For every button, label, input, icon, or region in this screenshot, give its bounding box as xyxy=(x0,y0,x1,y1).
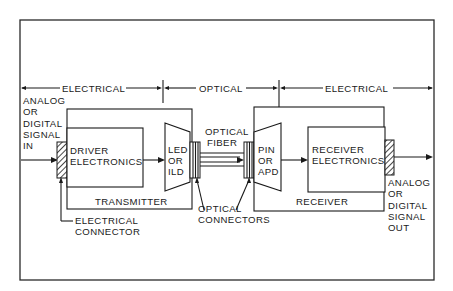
receiver-electronics-label-line2: ELECTRONICS xyxy=(312,155,385,166)
optical-connectors-label-line1: OPTICAL xyxy=(198,203,242,214)
svg-text:OR: OR xyxy=(23,106,38,117)
svg-text:DIGITAL: DIGITAL xyxy=(388,200,428,211)
optical-fiber xyxy=(200,153,244,166)
region-label-electrical-right: ELECTRICAL xyxy=(325,83,388,94)
dim-arrow-icon xyxy=(273,86,278,90)
optical-connectors-label-line2: CONNECTORS xyxy=(198,214,270,225)
detector-label-line3: APD xyxy=(258,166,279,177)
source-label-line2: OR xyxy=(168,155,183,166)
driver-label-line1: DRIVER xyxy=(70,145,109,156)
svg-text:DIGITAL: DIGITAL xyxy=(23,118,63,129)
optical-connector-left xyxy=(190,142,200,178)
fiber-label-line1: OPTICAL xyxy=(205,126,249,137)
svg-text:SIGNAL: SIGNAL xyxy=(388,211,426,222)
transmitter-label: TRANSMITTER xyxy=(95,196,168,207)
fiber-arrow-icon xyxy=(237,157,244,163)
source-label-line1: LED xyxy=(168,144,188,155)
dim-arrow-right-icon xyxy=(428,86,433,90)
output-arrow-icon xyxy=(426,154,433,160)
optical-connector-right xyxy=(244,142,254,178)
svg-text:IN: IN xyxy=(23,140,33,151)
electrical-connector-label-line2: CONNECTOR xyxy=(75,226,140,237)
dim-arrow-icon xyxy=(280,86,285,90)
svg-text:OUT: OUT xyxy=(388,222,409,233)
region-label-electrical-left: ELECTRICAL xyxy=(62,83,125,94)
electrical-connector-in xyxy=(57,142,67,178)
dim-arrow-icon xyxy=(157,86,162,90)
electrical-connector-out xyxy=(385,140,394,175)
fiber-label-line2: FIBER xyxy=(207,137,237,148)
svg-text:ANALOG: ANALOG xyxy=(23,95,65,106)
detector-label-line1: PIN xyxy=(258,144,275,155)
svg-text:OR: OR xyxy=(388,188,403,199)
electrical-connector-label-line1: ELECTRICAL xyxy=(75,215,138,226)
receiver-electronics-label-line1: RECEIVER xyxy=(312,144,364,155)
dim-arrow-icon xyxy=(164,86,169,90)
svg-text:ANALOG: ANALOG xyxy=(388,177,430,188)
driver-label-line2: ELECTRONICS xyxy=(70,156,143,167)
svg-text:SIGNAL: SIGNAL xyxy=(23,129,61,140)
detector-label-line2: OR xyxy=(258,155,273,166)
source-label-line3: ILD xyxy=(168,166,184,177)
dim-arrow-left-icon xyxy=(21,86,26,90)
output-signal-label: ANALOG OR DIGITAL SIGNAL OUT xyxy=(388,177,430,233)
receiver-label: RECEIVER xyxy=(296,196,348,207)
fiber-link-diagram: ELECTRICAL OPTICAL ELECTRICAL ANALOG OR … xyxy=(0,0,453,291)
region-label-optical: OPTICAL xyxy=(199,83,243,94)
